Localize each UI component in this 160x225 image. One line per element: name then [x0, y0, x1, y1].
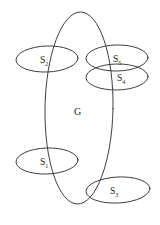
label-g: G	[74, 106, 81, 117]
label-s4: S4	[117, 73, 125, 85]
label-s2: S2	[40, 55, 48, 67]
diagram-canvas: S2 S5 S4 S1 S3 G	[0, 0, 160, 225]
subset-ellipse-s2	[16, 45, 79, 73]
label-s3: S3	[110, 186, 118, 198]
label-s5: S5	[113, 54, 121, 66]
label-s1: S1	[40, 157, 48, 169]
subset-ellipse-s1	[16, 147, 79, 175]
